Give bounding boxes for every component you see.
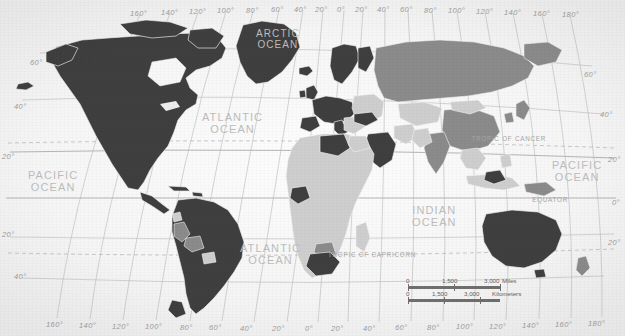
scale-miles-unit: Miles: [502, 277, 516, 284]
new-zealand: [576, 256, 590, 276]
hispaniola: [192, 192, 203, 197]
landmass-layer: [0, 0, 625, 336]
kazakhstan: [398, 102, 442, 126]
scandinavia: [330, 44, 360, 84]
ireland: [299, 90, 306, 98]
japan: [516, 100, 530, 120]
finland: [358, 46, 374, 72]
tasmania: [534, 269, 546, 278]
southeast-asia: [460, 148, 486, 170]
iceland: [299, 66, 313, 76]
scale-km-unit: Kilometers: [492, 290, 521, 297]
british-isles: [306, 85, 318, 100]
australia: [482, 210, 562, 268]
philippines: [500, 154, 512, 168]
north-america: [52, 33, 226, 190]
central-america: [140, 192, 170, 214]
scale-bar-kilometers: 0 1,500 3,000 Kilometers: [400, 291, 518, 304]
russia: [374, 40, 534, 102]
paraguay: [202, 252, 216, 264]
scale-bar: 0 1,500 3,000 Miles 0 1,500 3,000 Kilome…: [400, 278, 518, 304]
china: [442, 108, 500, 152]
scale-miles-tick-0: 0: [406, 277, 409, 284]
scale-bar-km-track: [408, 299, 500, 302]
scale-miles-tick-2: 3,000: [484, 277, 499, 284]
cuba: [168, 186, 190, 191]
madagascar: [356, 222, 370, 252]
iberia: [300, 116, 320, 132]
antarctica-tip: [168, 300, 186, 318]
scale-km-tick-1: 1,500: [432, 290, 447, 297]
scale-miles-tick-1: 1,500: [442, 277, 457, 284]
greenland: [236, 21, 300, 84]
papua-new-guinea: [524, 182, 556, 196]
korea: [504, 112, 514, 123]
world-map: ARCTICOCEANATLANTICOCEANATLANTICOCEANPAC…: [0, 0, 625, 336]
scale-bar-miles-track: [408, 286, 500, 289]
scale-km-tick-0: 0: [406, 290, 409, 297]
scale-km-tick-2: 3,000: [464, 290, 479, 297]
aleutian-islands: [16, 82, 34, 90]
ecuador: [172, 212, 182, 222]
